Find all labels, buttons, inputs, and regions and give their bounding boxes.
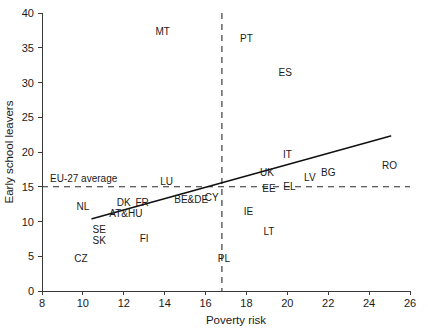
data-point-label-nl: NL: [76, 201, 89, 212]
data-point-label-ro: RO: [382, 160, 397, 171]
y-axis-title: Early school leavers: [3, 100, 15, 203]
reference-lines-group: [42, 13, 410, 291]
data-point-label-fr: FR: [136, 197, 149, 208]
data-point-label-bg: BG: [321, 167, 336, 178]
data-point-label-mt: MT: [155, 26, 169, 37]
y-tick-label: 40: [22, 7, 34, 19]
data-point-label-be-de: BE&DE: [174, 194, 208, 205]
x-tick-label: 14: [159, 297, 171, 309]
x-tick-label: 10: [77, 297, 89, 309]
eu-27-average-annotation: EU-27 average: [50, 173, 118, 184]
x-tick-label: 8: [39, 297, 45, 309]
data-point-label-it: IT: [283, 149, 292, 160]
y-tick-label: 15: [22, 181, 34, 193]
annotations-group: EU-27 average: [50, 173, 118, 184]
y-axis-ticks: 0510152025303540: [22, 7, 42, 297]
x-tick-label: 12: [118, 297, 130, 309]
data-point-label-cz: CZ: [74, 253, 87, 264]
x-tick-label: 18: [240, 297, 252, 309]
y-tick-label: 30: [22, 77, 34, 89]
data-point-label-at-hu: AT&HU: [109, 208, 142, 219]
y-tick-label: 25: [22, 111, 34, 123]
data-point-label-dk: DK: [117, 197, 131, 208]
data-point-label-sk: SK: [93, 235, 107, 246]
data-point-label-ee: EE: [262, 183, 276, 194]
x-tick-label: 16: [199, 297, 211, 309]
data-point-label-lu: LU: [160, 176, 173, 187]
x-axis-ticks: 8101214161820222426: [39, 291, 416, 309]
scatter-chart: 0510152025303540 8101214161820222426 MTP…: [0, 0, 428, 331]
x-tick-label: 20: [281, 297, 293, 309]
x-tick-label: 26: [404, 297, 416, 309]
data-point-label-fi: FI: [140, 233, 149, 244]
data-point-label-lv: LV: [304, 172, 316, 183]
y-tick-label: 0: [28, 285, 34, 297]
data-point-labels-group: MTPTESITROUKBGLVLUELEECYBE&DEFRDKNLIEAT&…: [74, 26, 397, 264]
y-tick-label: 5: [28, 250, 34, 262]
data-point-label-el: EL: [283, 181, 296, 192]
axes: [42, 13, 410, 291]
data-point-label-pt: PT: [240, 33, 253, 44]
x-tick-label: 24: [363, 297, 375, 309]
y-tick-label: 20: [22, 146, 34, 158]
x-axis-title: Poverty risk: [206, 314, 266, 326]
data-point-label-pl: PL: [218, 253, 231, 264]
y-tick-label: 35: [22, 42, 34, 54]
data-point-label-lt: LT: [263, 226, 274, 237]
data-point-label-se: SE: [93, 224, 107, 235]
data-point-label-es: ES: [279, 67, 293, 78]
x-tick-label: 22: [322, 297, 334, 309]
data-point-label-uk: UK: [260, 167, 274, 178]
y-tick-label: 10: [22, 216, 34, 228]
data-point-label-ie: IE: [244, 206, 254, 217]
plot-canvas: 0510152025303540 8101214161820222426 MTP…: [0, 0, 428, 331]
